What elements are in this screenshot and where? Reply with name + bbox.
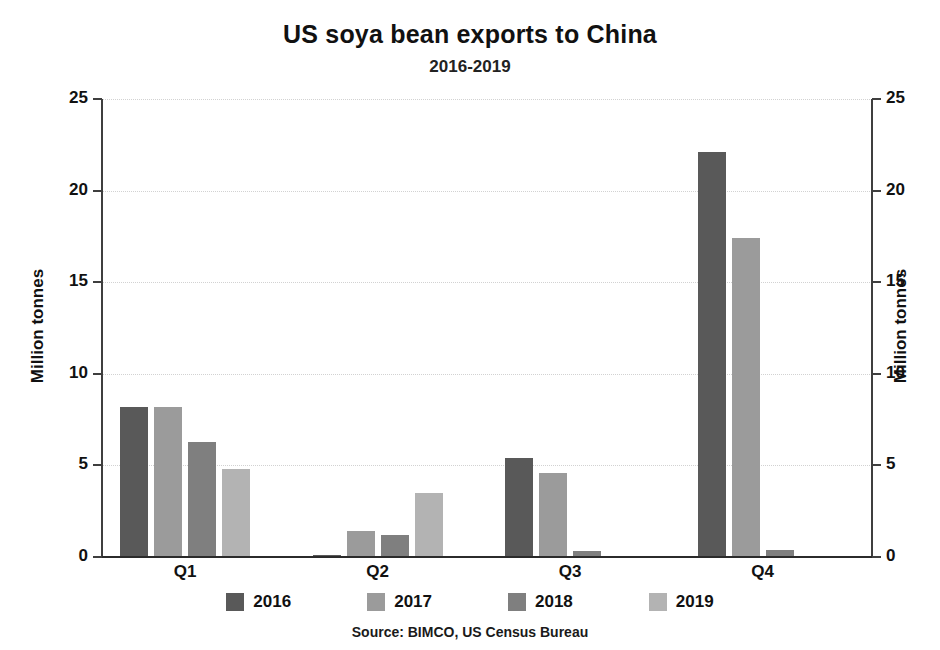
bar-2018-Q1 <box>188 442 216 557</box>
y-axis-tick-left <box>93 464 102 466</box>
y-axis-tick-right <box>872 373 881 375</box>
bar-2016-Q1 <box>120 407 148 557</box>
x-axis-category-label: Q3 <box>510 562 630 582</box>
source-note: Source: BIMCO, US Census Bureau <box>0 624 940 640</box>
bar-2016-Q4 <box>698 152 726 557</box>
y-axis-tick-right <box>872 281 881 283</box>
legend-label: 2019 <box>676 592 714 612</box>
plot-area <box>102 99 872 557</box>
y-axis-tick-left <box>93 556 102 558</box>
x-axis-category-label: Q4 <box>703 562 823 582</box>
legend-swatch-icon <box>367 593 385 611</box>
chart-figure: US soya bean exports to China 2016-2019 … <box>0 0 940 650</box>
y-axis-tick-label-left: 25 <box>28 88 88 108</box>
gridline <box>102 191 872 192</box>
legend-item-2016[interactable]: 2016 <box>226 592 291 612</box>
y-axis-left-line <box>101 99 103 558</box>
gridline <box>102 99 872 100</box>
bar-2017-Q2 <box>347 531 375 557</box>
bar-2017-Q1 <box>154 407 182 557</box>
bar-2019-Q2 <box>415 493 443 557</box>
legend-label: 2018 <box>535 592 573 612</box>
y-axis-tick-right <box>872 190 881 192</box>
y-axis-tick-right <box>872 464 881 466</box>
bar-2018-Q2 <box>381 535 409 557</box>
y-axis-tick-label-right: 20 <box>886 180 926 200</box>
legend-swatch-icon <box>508 593 526 611</box>
bar-2017-Q4 <box>732 238 760 557</box>
y-axis-tick-label-left: 5 <box>28 454 88 474</box>
legend-label: 2016 <box>253 592 291 612</box>
y-axis-tick-label-right: 25 <box>886 88 926 108</box>
bar-2017-Q3 <box>539 473 567 557</box>
legend-label: 2017 <box>394 592 432 612</box>
bar-2019-Q1 <box>222 469 250 557</box>
y-axis-tick-left <box>93 98 102 100</box>
x-axis-category-label: Q2 <box>318 562 438 582</box>
legend-item-2019[interactable]: 2019 <box>649 592 714 612</box>
y-axis-tick-right <box>872 556 881 558</box>
y-axis-tick-label-left: 0 <box>28 546 88 566</box>
chart-title: US soya bean exports to China <box>0 20 940 49</box>
y-axis-tick-left <box>93 373 102 375</box>
x-axis-line <box>101 556 873 558</box>
y-axis-tick-label-right: 15 <box>886 271 926 291</box>
bar-2016-Q3 <box>505 458 533 557</box>
y-axis-tick-label-right: 10 <box>886 363 926 383</box>
y-axis-tick-label-left: 20 <box>28 180 88 200</box>
legend-swatch-icon <box>226 593 244 611</box>
y-axis-tick-right <box>872 98 881 100</box>
legend-item-2018[interactable]: 2018 <box>508 592 573 612</box>
y-axis-tick-left <box>93 190 102 192</box>
chart-legend: 2016201720182019 <box>0 592 940 612</box>
y-axis-tick-label-left: 15 <box>28 271 88 291</box>
y-axis-tick-label-left: 10 <box>28 363 88 383</box>
legend-item-2017[interactable]: 2017 <box>367 592 432 612</box>
y-axis-tick-label-right: 0 <box>886 546 926 566</box>
y-axis-tick-label-right: 5 <box>886 454 926 474</box>
y-axis-right-line <box>871 99 873 558</box>
chart-subtitle: 2016-2019 <box>0 57 940 77</box>
y-axis-tick-left <box>93 281 102 283</box>
legend-swatch-icon <box>649 593 667 611</box>
x-axis-category-label: Q1 <box>125 562 245 582</box>
